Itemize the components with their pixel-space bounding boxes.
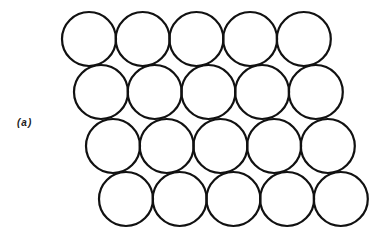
circle	[128, 65, 182, 119]
circle	[247, 119, 301, 173]
circle	[301, 119, 355, 173]
circle	[314, 172, 368, 226]
figure-canvas: (a)	[0, 0, 385, 236]
circle	[74, 65, 128, 119]
circle	[99, 172, 153, 226]
circle	[235, 65, 289, 119]
circle-packing-diagram	[0, 0, 385, 236]
circle-row-4	[99, 172, 368, 226]
circle	[62, 12, 116, 66]
circle	[223, 12, 277, 66]
circle	[153, 172, 207, 226]
circle	[116, 12, 170, 66]
circle	[260, 172, 314, 226]
circle	[181, 65, 235, 119]
circle-row-1	[62, 12, 331, 66]
circle	[206, 172, 260, 226]
circle	[169, 12, 223, 66]
circle-row-2	[74, 65, 343, 119]
circle	[86, 119, 140, 173]
circle-row-3	[86, 119, 355, 173]
circle	[140, 119, 194, 173]
circle	[193, 119, 247, 173]
circle	[289, 65, 343, 119]
circle	[277, 12, 331, 66]
